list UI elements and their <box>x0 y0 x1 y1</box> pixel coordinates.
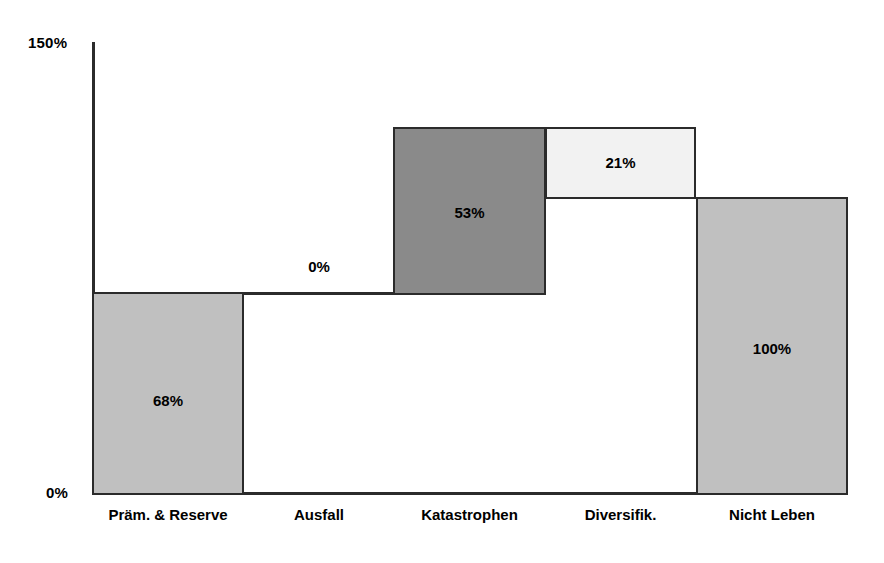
value-label-pr-m-reserve: 68% <box>92 392 244 409</box>
bar-ausfall <box>244 292 394 295</box>
category-label-ausfall: Ausfall <box>244 506 394 523</box>
waterfall-chart: 150% 0% 68%0%53%21%100% Präm. & ReserveA… <box>0 0 884 563</box>
category-label-katastrophen: Katastrophen <box>393 506 546 523</box>
category-label-nicht-leben: Nicht Leben <box>696 506 848 523</box>
category-label-diversifik: Diversifik. <box>545 506 696 523</box>
value-label-ausfall: 0% <box>244 258 394 275</box>
y-axis-tick-bottom: 0% <box>46 484 68 501</box>
value-label-diversifik: 21% <box>545 154 696 171</box>
value-label-katastrophen: 53% <box>393 204 546 221</box>
value-label-nicht-leben: 100% <box>696 340 848 357</box>
y-axis-tick-top: 150% <box>28 34 67 51</box>
category-label-pr-m-reserve: Präm. & Reserve <box>92 506 244 523</box>
